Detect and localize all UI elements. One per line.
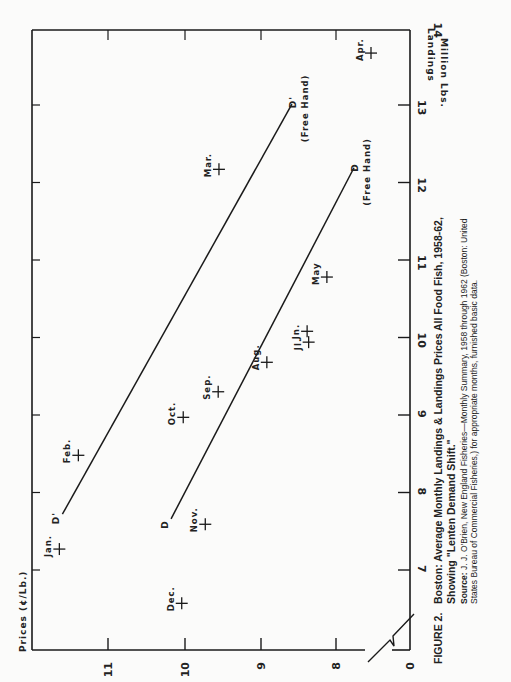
data-point: Feb. xyxy=(62,439,84,464)
y-tick-label: 0 xyxy=(404,662,417,670)
x-tick-label: 13 xyxy=(415,100,428,115)
line-end-label: D' xyxy=(288,96,298,108)
figure-caption: FIGURE 2. Boston: Average Monthly Landin… xyxy=(432,217,479,664)
figure-number: FIGURE 2. xyxy=(432,613,444,664)
figure-source: Source: J. J. O'Brien, New England Fishe… xyxy=(459,218,469,604)
y-tick-label: 10 xyxy=(179,662,192,678)
x-axis-title-units: Million Lbs. xyxy=(439,38,449,108)
free-hand-note: (Free Hand) xyxy=(362,138,372,206)
data-point: Apr. xyxy=(355,38,377,61)
x-tick-label: 9 xyxy=(415,410,428,418)
line-start-label: D xyxy=(160,520,170,528)
demand-lines: D'D'(Free Hand)DD(Free Hand) xyxy=(51,75,372,529)
point-label: Sep. xyxy=(202,375,212,400)
point-label: Nov. xyxy=(189,507,199,532)
data-point: Jan. xyxy=(43,535,65,558)
y-axis-tick-labels: 0891011 xyxy=(102,662,417,678)
line-start-label: D' xyxy=(51,512,61,524)
y-tick-label: 8 xyxy=(330,662,343,670)
y-tick-label: 9 xyxy=(255,662,268,670)
x-tick-label: 7 xyxy=(415,565,428,573)
x-axis-title: Landings xyxy=(426,28,436,82)
demand-line xyxy=(62,104,292,514)
point-label: Dec. xyxy=(166,586,176,611)
y-axis-title: Prices (¢/Lb.) xyxy=(18,571,28,652)
point-label: Jn. xyxy=(291,324,301,340)
point-label: Mar. xyxy=(203,153,213,177)
data-point: Oct. xyxy=(167,402,189,426)
x-axis-ticks xyxy=(32,105,410,570)
data-point: Aug. xyxy=(251,344,273,370)
free-hand-note: (Free Hand) xyxy=(300,75,310,143)
data-point: May xyxy=(311,263,333,285)
point-label: May xyxy=(311,263,321,285)
point-label: Feb. xyxy=(62,439,72,464)
figure-title: Boston: Average Monthly Landings & Landi… xyxy=(432,217,444,604)
data-point: Sep. xyxy=(202,375,224,400)
chart: 7891011121314 0891011 Landings Million L… xyxy=(0,0,511,682)
data-points: Jan.Feb.Mar.Apr.MayJn.Jl.Aug.Sep.Oct.Nov… xyxy=(43,38,377,611)
point-label: Jan. xyxy=(43,535,53,558)
data-point: Mar. xyxy=(203,153,225,177)
figure-source-cont: States Bureau of Commercial Fisheries,) … xyxy=(469,280,479,604)
point-label: Oct. xyxy=(167,402,177,426)
data-point: Jn. xyxy=(291,324,313,340)
line-end-label: D xyxy=(350,163,360,171)
point-label: Apr. xyxy=(355,38,365,61)
y-tick-label: 11 xyxy=(102,662,115,677)
x-tick-label: 12 xyxy=(415,178,428,193)
plot-frame xyxy=(32,30,410,650)
point-label: Jl. xyxy=(293,338,303,351)
axis-break-icon xyxy=(368,614,414,662)
data-point: Jl. xyxy=(293,336,315,351)
demand-line xyxy=(171,168,354,519)
data-point: Nov. xyxy=(189,507,211,532)
x-tick-label: 10 xyxy=(415,333,428,349)
source-label: Source: xyxy=(459,572,469,604)
x-tick-label: 11 xyxy=(415,255,428,270)
point-label: Aug. xyxy=(251,344,261,370)
x-tick-label: 8 xyxy=(415,488,428,496)
figure-subtitle: Showing "Lenten Demand Shift." xyxy=(445,439,457,604)
data-point: Dec. xyxy=(166,586,188,611)
figure-page: 7891011121314 0891011 Landings Million L… xyxy=(0,0,511,682)
source-text: J. J. O'Brien, New England Fisheries—Mon… xyxy=(459,218,469,572)
